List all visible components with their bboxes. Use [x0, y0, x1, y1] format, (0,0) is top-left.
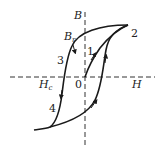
- point-2-label: 2: [131, 27, 138, 40]
- remanence-label: Br: [63, 30, 76, 44]
- b-axis-label: B: [73, 9, 82, 22]
- arrow-icon: [73, 45, 75, 52]
- h-axis-label: H: [131, 78, 142, 91]
- point-4-label: 4: [49, 102, 56, 115]
- hysteresis-diagram: B H 0 Br Hc 1 2 3 4: [0, 0, 165, 150]
- point-3-label: 3: [57, 54, 64, 67]
- point-1-label: 1: [87, 45, 94, 58]
- ascending-branch: [50, 25, 128, 127]
- coercivity-label: Hc: [38, 78, 53, 92]
- origin-label: 0: [75, 78, 82, 91]
